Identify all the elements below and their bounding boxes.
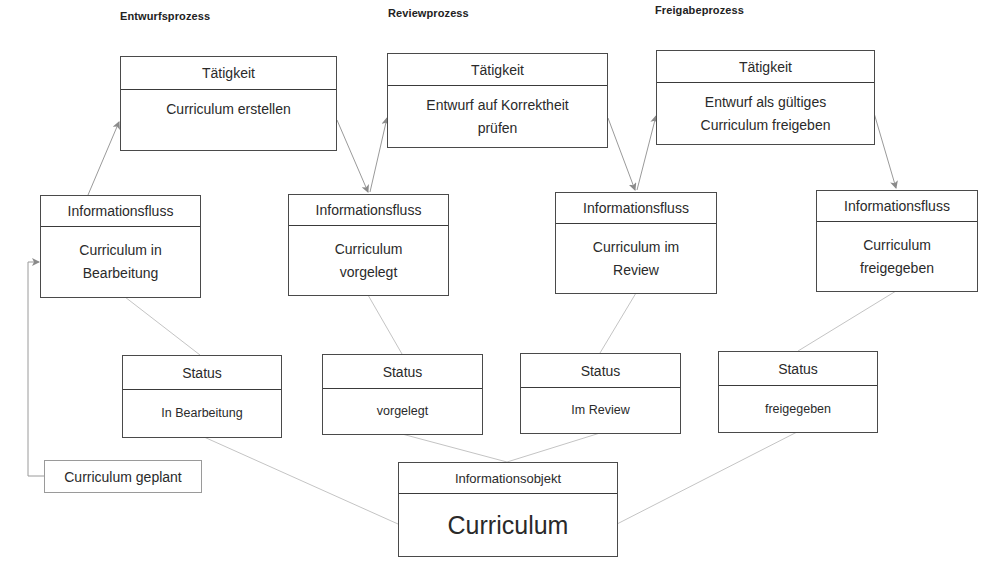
info-flow-text: Curriculum in Bearbeitung <box>41 227 200 297</box>
info-flow-header: Informationsfluss <box>41 196 200 227</box>
arrow-activity3-to-info4 <box>874 113 896 188</box>
start-state-box[interactable]: Curriculum geplant <box>44 460 202 493</box>
status-box-1[interactable]: Status In Bearbeitung <box>122 355 282 438</box>
info-flow-box-4[interactable]: Informationsfluss Curriculum freigegeben <box>816 190 978 292</box>
info-flow-box-3[interactable]: Informationsfluss Curriculum im Review <box>555 192 717 294</box>
activity-box-entwurf[interactable]: Tätigkeit Curriculum erstellen <box>120 56 337 151</box>
info-flow-box-2[interactable]: Informationsfluss Curriculum vorgelegt <box>288 194 449 296</box>
arrow-info1-to-activity1 <box>88 122 119 195</box>
status-text: vorgelegt <box>323 389 482 434</box>
info-flow-text: Curriculum freigegeben <box>817 222 977 291</box>
status-header: Status <box>719 352 877 386</box>
arrow-info2-to-activity2 <box>370 118 387 192</box>
process-label-review: Reviewprozess <box>388 7 469 19</box>
status-text: In Bearbeitung <box>123 390 281 437</box>
activity-text: Curriculum erstellen <box>121 90 336 150</box>
status-box-2[interactable]: Status vorgelegt <box>322 354 483 435</box>
arrow-info3-to-activity3 <box>637 116 656 190</box>
info-flow-text: Curriculum im Review <box>556 224 716 293</box>
arrow-activity1-to-info2 <box>337 120 368 192</box>
process-label-entwurf: Entwurfsprozess <box>120 10 210 22</box>
arrow-activity2-to-info3 <box>608 118 635 190</box>
activity-header: Tätigkeit <box>121 57 336 90</box>
activity-header: Tätigkeit <box>388 54 607 86</box>
info-flow-box-1[interactable]: Informationsfluss Curriculum in Bearbeit… <box>40 195 201 298</box>
info-flow-header: Informationsfluss <box>289 195 448 226</box>
info-flow-header: Informationsfluss <box>556 193 716 224</box>
status-text: freigegeben <box>719 386 877 432</box>
activity-header: Tätigkeit <box>657 51 874 83</box>
info-object-box[interactable]: Informationsobjekt Curriculum <box>398 462 618 557</box>
status-header: Status <box>323 355 482 389</box>
status-text: Im Review <box>521 388 680 433</box>
process-label-freigabe: Freigabeprozess <box>655 4 744 16</box>
activity-text: Entwurf als gültiges Curriculum freigebe… <box>657 83 874 144</box>
info-object-header: Informationsobjekt <box>399 463 617 494</box>
activity-box-freigabe[interactable]: Tätigkeit Entwurf als gültiges Curriculu… <box>656 50 875 145</box>
status-box-4[interactable]: Status freigegeben <box>718 351 878 433</box>
activity-box-review[interactable]: Tätigkeit Entwurf auf Korrektheit prüfen <box>387 53 608 148</box>
info-flow-text: Curriculum vorgelegt <box>289 226 448 295</box>
status-box-3[interactable]: Status Im Review <box>520 353 681 434</box>
info-flow-header: Informationsfluss <box>817 191 977 222</box>
status-header: Status <box>521 354 680 388</box>
activity-text: Entwurf auf Korrektheit prüfen <box>388 86 607 147</box>
info-object-text: Curriculum <box>399 494 617 556</box>
status-header: Status <box>123 356 281 390</box>
